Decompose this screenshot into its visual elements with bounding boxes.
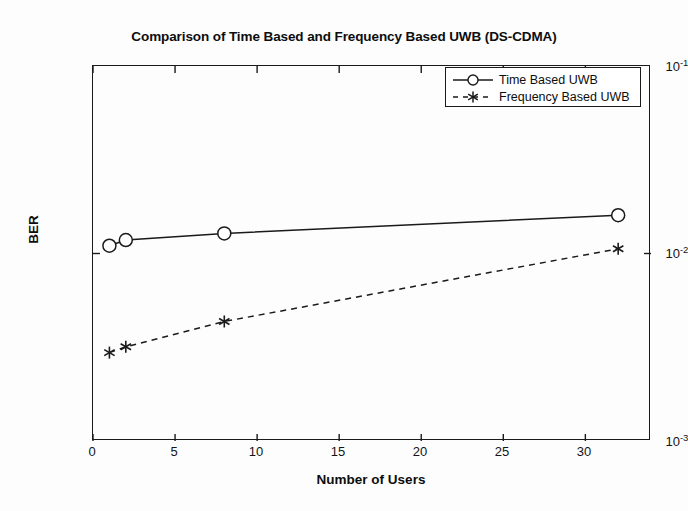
data-point-marker bbox=[218, 227, 231, 240]
x-axis-tick-label: 20 bbox=[400, 444, 440, 459]
x-axis-tick-label: 5 bbox=[154, 444, 194, 459]
y-tick-exponent: -1 bbox=[680, 57, 688, 68]
plot-area bbox=[92, 65, 650, 440]
data-point-marker bbox=[613, 243, 623, 255]
y-tick-mantissa: 10 bbox=[665, 434, 679, 449]
x-axis-label: Number of Users bbox=[92, 472, 650, 487]
x-axis-tick-label: 30 bbox=[564, 444, 604, 459]
legend-box: Time Based UWB Frequency Based UWB bbox=[445, 67, 641, 107]
y-tick-exponent: -2 bbox=[680, 244, 688, 255]
y-tick-exponent: -3 bbox=[680, 432, 688, 443]
data-point-marker bbox=[103, 239, 116, 252]
legend-entry-frequency-based: Frequency Based UWB bbox=[446, 88, 640, 105]
y-tick-mantissa: 10 bbox=[665, 59, 679, 74]
x-axis-tick-label: 15 bbox=[318, 444, 358, 459]
data-point-marker bbox=[121, 341, 131, 353]
figure-canvas: Comparison of Time Based and Frequency B… bbox=[0, 0, 688, 511]
y-tick-mantissa: 10 bbox=[665, 246, 679, 261]
legend-label: Frequency Based UWB bbox=[495, 90, 630, 104]
x-axis-tick-label: 10 bbox=[236, 444, 276, 459]
axis-tick-marks bbox=[93, 66, 651, 441]
x-axis-tick-label: 25 bbox=[482, 444, 522, 459]
series-line-1 bbox=[109, 249, 618, 353]
legend-entry-time-based: Time Based UWB bbox=[446, 71, 640, 88]
data-point-marker bbox=[104, 347, 114, 359]
data-point-marker bbox=[119, 234, 132, 247]
chart-title: Comparison of Time Based and Frequency B… bbox=[0, 29, 688, 44]
plot-svg bbox=[93, 66, 651, 441]
legend-marker-circle-icon bbox=[451, 72, 495, 88]
series-line-0 bbox=[109, 215, 618, 246]
data-point-marker bbox=[612, 209, 625, 222]
x-axis-tick-label: 0 bbox=[72, 444, 112, 459]
legend-marker-asterisk-icon bbox=[451, 89, 495, 105]
legend-label: Time Based UWB bbox=[495, 73, 598, 87]
y-axis-label: BER bbox=[26, 185, 41, 275]
data-series-group bbox=[103, 209, 625, 359]
